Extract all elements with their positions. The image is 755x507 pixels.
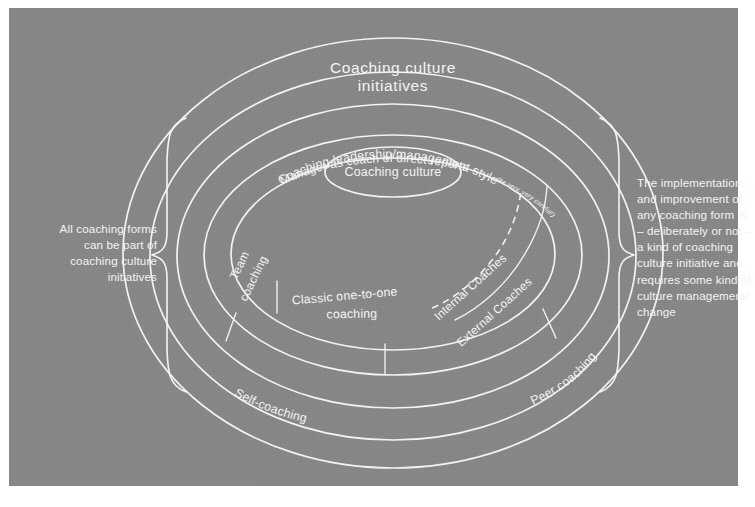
diagram-title-line-2: initiatives <box>358 77 428 94</box>
diagram-title-line-1: Coaching culture <box>330 59 456 76</box>
right-brace <box>600 118 634 392</box>
right-annotation: The implementation and improvement of an… <box>637 175 753 320</box>
segment-label-classic-line-2: coaching <box>326 307 377 322</box>
left-annotation: All coaching forms can be part of coachi… <box>33 221 157 285</box>
segment-label-classic-line-1: Classic one-to-one <box>291 284 398 307</box>
core-label: Coaching culture <box>344 165 441 179</box>
divider-self-right <box>543 309 556 338</box>
manager-as-coach-note: (Be very, very careful!) <box>494 175 556 219</box>
segment-label-peer-coaching: Peer coaching <box>528 350 599 408</box>
diagram-page: Coaching culture initiatives Coaching cu… <box>0 0 755 507</box>
left-brace <box>152 118 186 392</box>
